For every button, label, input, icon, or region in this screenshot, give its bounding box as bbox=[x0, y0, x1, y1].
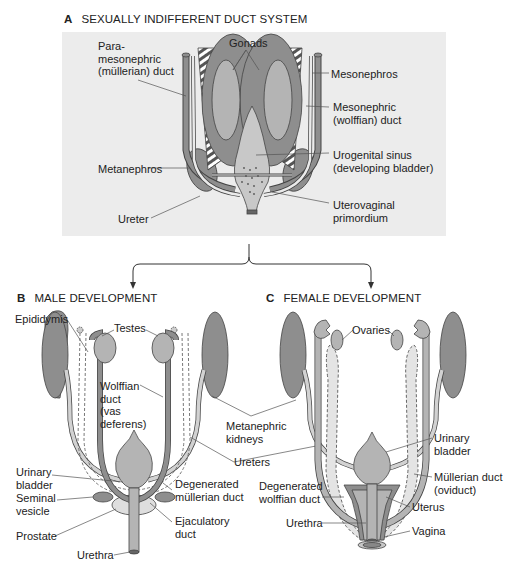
label-urethra-male: Urethra bbox=[77, 549, 114, 562]
urethra-female bbox=[367, 484, 377, 542]
ovary-right bbox=[391, 330, 403, 350]
label-metanephric-kidneys: Metanephric kidneys bbox=[226, 420, 287, 445]
label-gonads: Gonads bbox=[229, 37, 268, 50]
gonad-right-inner bbox=[264, 60, 292, 140]
label-ureters: Ureters bbox=[234, 456, 270, 469]
label-vagina: Vagina bbox=[412, 525, 445, 538]
label-mesonephric-duct: Mesonephric (wolffian) duct bbox=[333, 101, 401, 126]
label-uterovaginal-primordium: Uterovaginal primordium bbox=[333, 199, 395, 224]
label-degenerated-wolffian-duct: Degenerated wolffian duct bbox=[259, 480, 323, 505]
label-ureter: Ureter bbox=[118, 213, 149, 226]
label-testes: Testes bbox=[114, 322, 146, 335]
label-wolffian-duct: Wolffian duct (vas deferens) bbox=[100, 380, 146, 430]
label-metanephros: Metanephros bbox=[98, 163, 162, 176]
seminal-vesicle-left bbox=[93, 492, 113, 502]
uterovaginal-primordium-tip bbox=[247, 210, 257, 214]
label-mesonephros: Mesonephros bbox=[331, 68, 398, 81]
panel-b-title-text: MALE DEVELOPMENT bbox=[34, 292, 157, 304]
label-urinary-bladder-female: Urinary bladder bbox=[434, 432, 471, 457]
testis-right bbox=[152, 333, 174, 363]
fimbria-right bbox=[414, 320, 430, 338]
label-paramesonephric-duct: Para- mesonephric (müllerian) duct bbox=[98, 40, 174, 78]
branch-brace bbox=[133, 244, 371, 283]
ovary-left bbox=[331, 330, 343, 350]
panel-b-letter: B bbox=[17, 292, 25, 304]
kidney-left-female bbox=[280, 312, 306, 398]
arrow-to-male-icon bbox=[130, 282, 136, 289]
panel-a-title: ASEXUALLY INDIFFERENT DUCT SYSTEM bbox=[64, 13, 307, 25]
panel-c-title-text: FEMALE DEVELOPMENT bbox=[283, 292, 421, 304]
urinary-bladder-female bbox=[354, 432, 391, 484]
label-mullerian-duct: Müllerian duct (oviduct) bbox=[434, 471, 502, 496]
label-urogenital-sinus: Urogenital sinus (developing bladder) bbox=[333, 149, 433, 174]
label-urinary-bladder-male: Urinary bladder bbox=[16, 466, 53, 491]
urethra-male bbox=[129, 488, 139, 552]
gonad-left-inner bbox=[212, 60, 240, 140]
panel-c-letter: C bbox=[266, 292, 274, 304]
label-degenerated-mullerian-duct: Degenerated müllerian duct bbox=[175, 478, 243, 503]
seminal-vesicle-right bbox=[155, 492, 175, 502]
arrow-to-female-icon bbox=[368, 282, 374, 289]
label-epididymis: Epididymis bbox=[15, 313, 68, 326]
label-seminal-vesicle: Seminal vesicle bbox=[16, 492, 56, 517]
urinary-bladder-male bbox=[116, 430, 153, 488]
ureter-right bbox=[148, 370, 204, 480]
panel-b-title: BMALE DEVELOPMENT bbox=[17, 292, 157, 304]
label-ejaculatory-duct: Ejaculatory duct bbox=[175, 515, 229, 540]
label-uterus: Uterus bbox=[412, 501, 444, 514]
panel-c-title: CFEMALE DEVELOPMENT bbox=[266, 292, 421, 304]
label-urethra-female: Urethra bbox=[286, 517, 323, 530]
kidney-right-female bbox=[440, 312, 466, 398]
label-prostate: Prostate bbox=[16, 530, 57, 543]
kidney-right bbox=[202, 312, 228, 398]
testis-left bbox=[94, 333, 116, 363]
panel-a-letter: A bbox=[64, 13, 72, 25]
label-ovaries: Ovaries bbox=[352, 324, 390, 337]
fimbria-left bbox=[314, 320, 330, 338]
panel-a-title-text: SEXUALLY INDIFFERENT DUCT SYSTEM bbox=[81, 13, 307, 25]
